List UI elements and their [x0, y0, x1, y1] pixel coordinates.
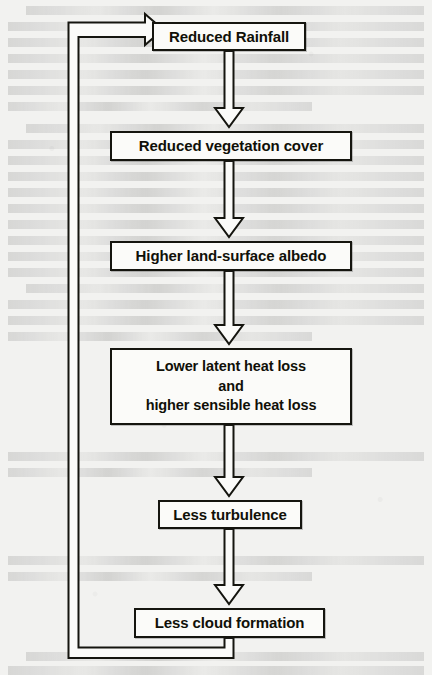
node-higher-land-surface-albedo: Higher land-surface albedo — [110, 241, 352, 271]
edge-feedback-cloud-to-rainfall-arrow — [69, 14, 234, 658]
node-label-reduced-vegetation-cover: Reduced vegetation cover — [139, 137, 323, 155]
edge-vegetation-to-albedo-arrow — [215, 161, 243, 237]
edge-rainfall-to-vegetation-arrow — [215, 51, 243, 127]
node-lower-latent-heat-loss: Lower latent heat loss and higher sensib… — [110, 348, 352, 425]
node-label-reduced-rainfall: Reduced Rainfall — [169, 28, 289, 46]
node-reduced-rainfall: Reduced Rainfall — [152, 22, 306, 51]
flowchart-connectors — [0, 0, 432, 675]
node-less-cloud-formation: Less cloud formation — [134, 608, 325, 638]
node-label-less-turbulence: Less turbulence — [173, 506, 287, 524]
edge-turbulence-to-cloud-arrow — [215, 529, 243, 604]
edge-heatloss-to-turbulence-arrow — [215, 425, 243, 496]
node-less-turbulence: Less turbulence — [158, 500, 302, 529]
edge-albedo-to-heatloss-arrow — [215, 271, 243, 344]
node-label-lower-latent-heat-loss: Lower latent heat loss and higher sensib… — [146, 357, 317, 416]
node-reduced-vegetation-cover: Reduced vegetation cover — [110, 131, 352, 161]
node-label-higher-land-surface-albedo: Higher land-surface albedo — [136, 247, 327, 265]
node-label-less-cloud-formation: Less cloud formation — [155, 614, 305, 632]
figure-canvas: Reduced Rainfall Reduced vegetation cove… — [0, 0, 432, 675]
